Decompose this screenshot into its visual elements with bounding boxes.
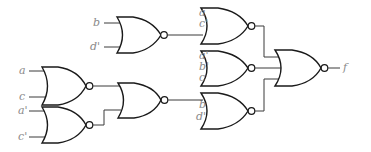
label-c: c — [199, 71, 205, 84]
label-output-f: f — [342, 61, 349, 74]
label-c-left: c — [19, 90, 25, 103]
nor-gate-b-d: b d' — [90, 16, 203, 53]
label-c-prime-left: c' — [18, 130, 27, 143]
nor-gate-a-c: a c — [19, 64, 121, 105]
nor-gate-top: a c' — [199, 6, 280, 57]
logic-circuit-diagram: b d' a c' a' b' c b d' f — [0, 0, 371, 152]
nor-gate-aprime-cprime: a' c' — [18, 104, 121, 143]
nor-gate-middle — [118, 83, 203, 118]
nor-gate-output: f — [275, 50, 349, 86]
label-a-left: a — [19, 64, 26, 77]
label-a-prime-left: a' — [18, 104, 28, 117]
label-c-prime: c' — [199, 17, 208, 30]
label-d-prime-2: d' — [196, 110, 206, 123]
label-d-prime: d' — [90, 40, 100, 53]
label-b: b — [93, 16, 100, 29]
nor-gate-center: a' b' c — [199, 49, 282, 86]
